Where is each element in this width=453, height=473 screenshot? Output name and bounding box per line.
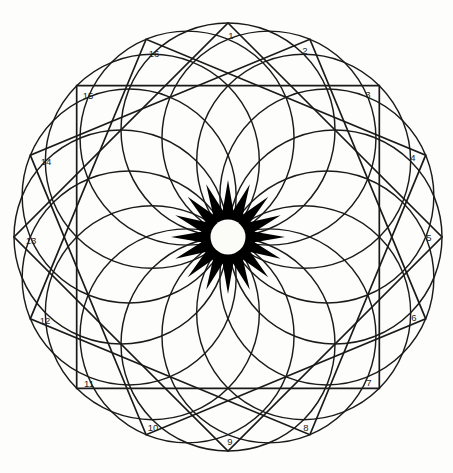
central-hole bbox=[211, 220, 246, 255]
corner-label-13: 13 bbox=[26, 235, 37, 246]
corner-label-8: 8 bbox=[303, 422, 308, 433]
corner-label-6: 6 bbox=[411, 312, 416, 323]
corner-label-10: 10 bbox=[148, 422, 159, 433]
corner-label-4: 4 bbox=[410, 152, 415, 163]
rosette-figure: 12345678910111213141516 bbox=[0, 0, 453, 473]
central-star-layer bbox=[171, 180, 285, 294]
corner-label-7: 7 bbox=[366, 377, 371, 388]
corner-label-1: 1 bbox=[228, 30, 233, 41]
corner-label-3: 3 bbox=[365, 89, 370, 100]
corner-label-15: 15 bbox=[83, 90, 94, 101]
corner-label-9: 9 bbox=[227, 436, 232, 447]
corner-label-2: 2 bbox=[302, 45, 307, 56]
rosette-canvas: 12345678910111213141516 bbox=[0, 0, 453, 473]
corner-label-14: 14 bbox=[41, 156, 52, 167]
corner-label-5: 5 bbox=[426, 232, 431, 243]
corner-label-11: 11 bbox=[84, 378, 94, 389]
corner-label-16: 16 bbox=[149, 48, 160, 59]
corner-label-12: 12 bbox=[40, 315, 51, 326]
